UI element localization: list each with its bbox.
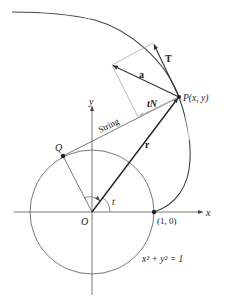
point-Q <box>61 154 65 158</box>
construction-line <box>112 65 138 117</box>
point-P <box>177 95 181 99</box>
vector-T-label: T <box>165 53 172 64</box>
vector-a <box>113 66 179 98</box>
origin-label: O <box>81 216 88 227</box>
point-P-label: P(x, y) <box>182 93 208 104</box>
angle-arc-t <box>103 198 111 213</box>
involute-curve <box>12 12 190 212</box>
circle-equation-label: x² + y² = 1 <box>141 254 183 264</box>
angle-t-label: t <box>112 197 115 207</box>
construction-line <box>112 43 153 65</box>
vector-a-label: a <box>139 69 144 80</box>
vector-r <box>92 98 178 212</box>
x-axis-label: x <box>205 207 211 218</box>
vector-tN-label: tN <box>147 98 158 109</box>
involute-diagram: x y O Q P(x, y) (1, 0) t String r T a tN… <box>0 0 227 306</box>
unit-point-label: (1, 0) <box>157 216 177 226</box>
radius-OQ <box>63 156 92 212</box>
y-axis-label: y <box>88 96 94 107</box>
vector-r-label: r <box>145 139 150 150</box>
curve-highlight <box>186 116 189 140</box>
string-label: String <box>96 116 121 135</box>
point-Q-label: Q <box>55 142 63 153</box>
point-unit <box>152 210 156 214</box>
vector-tN <box>139 97 179 117</box>
